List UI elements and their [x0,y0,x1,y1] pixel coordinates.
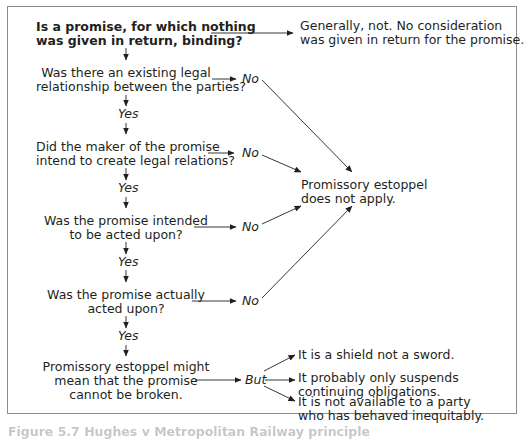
no-outcome-line1: Promissory estoppel [301,178,427,192]
question-2-line2: intend to create legal relations? [36,154,216,168]
figure-caption: Figure 5.7 Hughes v Metropolitan Railway… [8,424,370,444]
question-actually-acted-upon: Was the promise actually acted upon? [36,288,216,316]
final-line2: mean that the promise [36,374,216,388]
caveat-2-line1: It probably only suspends [298,371,459,385]
no-label-3: No [242,220,259,234]
start-outcome-line2: was given in return for the promise. [300,33,524,47]
yes-label-3: Yes [118,255,138,269]
start-question-line1: Is a promise, for which nothing [36,20,216,34]
final-outcome: Promissory estoppel might mean that the … [36,360,216,402]
start-outcome-line1: Generally, not. No consideration [300,19,524,33]
question-4-line1: Was the promise actually [36,288,216,302]
question-3-line2: to be acted upon? [36,228,216,242]
start-question: Is a promise, for which nothing was give… [36,20,216,48]
yes-label-2: Yes [118,181,138,195]
no-outcome-line2: does not apply. [301,192,427,206]
no-label-1: No [242,72,259,86]
but-label: But [245,373,266,387]
question-2-line1: Did the maker of the promise [36,140,216,154]
yes-label-1: Yes [118,107,138,121]
question-intend-legal-relations: Did the maker of the promise intend to c… [36,140,216,168]
caveat-3-line1: It is not available to a party [298,395,484,409]
question-1-line1: Was there an existing legal [36,66,216,80]
caveat-3-line2: who has behaved inequitably. [298,409,484,423]
yes-label-4: Yes [118,329,138,343]
no-label-2: No [242,146,259,160]
caveat-1-line1: It is a shield not a sword. [298,348,454,362]
no-label-4: No [242,294,259,308]
caveat-inequitable-party: It is not available to a party who has b… [298,395,484,423]
final-line3: cannot be broken. [36,388,216,402]
question-existing-legal-relationship: Was there an existing legal relationship… [36,66,216,94]
start-question-line2: was given in return, binding? [36,34,216,48]
question-1-line2: relationship between the parties? [36,80,216,94]
caveat-shield-not-sword: It is a shield not a sword. [298,348,454,362]
question-intended-to-be-acted-upon: Was the promise intended to be acted upo… [36,214,216,242]
no-outcome: Promissory estoppel does not apply. [301,178,427,206]
question-3-line1: Was the promise intended [36,214,216,228]
question-4-line2: acted upon? [36,302,216,316]
final-line1: Promissory estoppel might [36,360,216,374]
start-outcome: Generally, not. No consideration was giv… [300,19,524,47]
